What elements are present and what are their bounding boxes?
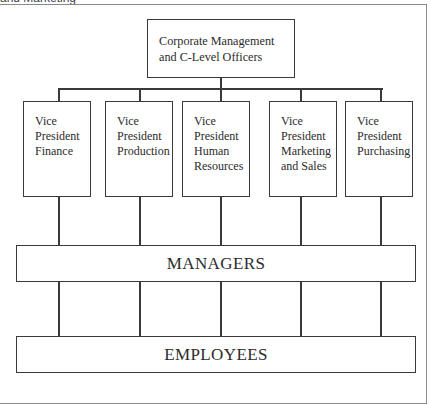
connector-bus-to-vp-finance [58, 88, 60, 102]
connector-vp-to-managers-finance [58, 196, 60, 246]
vp-box-marketing-sales: VicePresidentMarketingand Sales [269, 101, 337, 197]
connector-managers-to-employees-2 [139, 281, 141, 337]
connector-vp-to-managers-purchasing [380, 196, 382, 246]
vp-box-human-resources: VicePresidentHumanResources [182, 101, 250, 197]
top-box-line-2: and C-Level Officers [159, 49, 274, 65]
vp-box-line: Vice [357, 114, 412, 129]
vp-box-line: Marketing [281, 144, 336, 159]
connector-managers-to-employees-1 [58, 281, 60, 337]
vp-box-line: President [35, 129, 90, 144]
vp-box-line: President [281, 129, 336, 144]
vp-box-line: Production [117, 144, 172, 159]
employees-label: EMPLOYEES [164, 345, 268, 365]
vp-box-line: Vice [35, 114, 90, 129]
connector-managers-to-employees-3 [220, 281, 222, 337]
vp-box-line: Vice [194, 114, 249, 129]
vp-box-line: Human [194, 144, 249, 159]
connector-managers-to-employees-4 [300, 281, 302, 337]
corporate-management-box: Corporate Management and C-Level Officer… [147, 19, 295, 78]
vp-box-line: President [194, 129, 249, 144]
top-box-line-1: Corporate Management [159, 33, 274, 49]
managers-label: MANAGERS [167, 254, 266, 274]
vp-box-purchasing: VicePresidentPurchasing [345, 101, 413, 197]
employees-bar: EMPLOYEES [16, 336, 416, 373]
vp-box-line: Vice [281, 114, 336, 129]
connector-bus-to-vp-purchasing [380, 88, 382, 102]
connector-vp-to-managers-human-resources [220, 196, 222, 246]
connector-vp-to-managers-marketing-sales [300, 196, 302, 246]
connector-managers-to-employees-5 [380, 281, 382, 337]
connector-bus-to-vp-marketing-sales [300, 88, 302, 102]
vp-box-line: and Sales [281, 159, 336, 174]
vp-box-production: VicePresidentProduction [105, 101, 173, 197]
vp-box-line: Vice [117, 114, 172, 129]
managers-bar: MANAGERS [16, 245, 416, 282]
vp-box-line: Finance [35, 144, 90, 159]
connector-bus-to-vp-production [139, 88, 141, 102]
vp-box-line: President [357, 129, 412, 144]
connector-bus-to-vp-human-resources [220, 88, 222, 102]
vp-box-finance: VicePresidentFinance [23, 101, 91, 197]
vp-box-line: Purchasing [357, 144, 412, 159]
connector-vp-to-managers-production [139, 196, 141, 246]
vp-box-line: Resources [194, 159, 249, 174]
vp-box-line: President [117, 129, 172, 144]
